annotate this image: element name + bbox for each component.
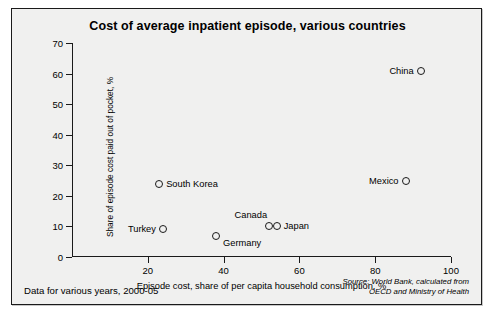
data-point-label-mexico: Mexico: [369, 176, 398, 186]
y-tick: [66, 226, 72, 227]
x-tick: [299, 257, 300, 263]
data-point-japan[interactable]: [273, 222, 281, 230]
chart-footnote: Data for various years, 2000-05: [24, 285, 158, 296]
y-tick-label: 0: [58, 252, 63, 263]
x-axis-line: [72, 256, 451, 257]
y-tick: [66, 257, 72, 258]
plot-area: 010203040506070 20406080100 ChinaMexicoS…: [72, 43, 451, 257]
x-tick-label: 60: [294, 265, 305, 276]
chart-source: Source: World Bank, calculated from OECD…: [342, 277, 469, 298]
data-point-china[interactable]: [417, 67, 425, 75]
data-point-label-japan: Japan: [284, 221, 309, 231]
data-point-label-south-korea: South Korea: [166, 179, 218, 189]
y-tick-label: 50: [52, 99, 63, 110]
y-tick-label: 10: [52, 221, 63, 232]
chart-title: Cost of average inpatient episode, vario…: [12, 19, 482, 33]
data-point-label-canada: Canada: [235, 210, 268, 220]
y-tick: [66, 43, 72, 44]
data-point-canada[interactable]: [265, 222, 273, 230]
y-tick: [66, 135, 72, 136]
chart-source-line-1: Source: World Bank, calculated from: [342, 277, 469, 288]
data-point-south-korea[interactable]: [155, 180, 163, 188]
y-tick: [66, 104, 72, 105]
x-tick-label: 40: [218, 265, 229, 276]
data-point-label-china: China: [389, 66, 413, 76]
chart-figure: Cost of average inpatient episode, vario…: [11, 8, 482, 305]
x-tick-label: 100: [443, 265, 459, 276]
y-tick: [66, 196, 72, 197]
y-tick-label: 20: [52, 190, 63, 201]
y-axis-line: [72, 43, 73, 257]
y-tick-label: 30: [52, 160, 63, 171]
y-tick-label: 40: [52, 129, 63, 140]
data-point-turkey[interactable]: [159, 225, 167, 233]
data-point-mexico[interactable]: [402, 177, 410, 185]
x-tick: [451, 257, 452, 263]
x-tick: [375, 257, 376, 263]
x-tick: [224, 257, 225, 263]
y-tick: [66, 74, 72, 75]
y-tick-label: 70: [52, 38, 63, 49]
y-tick-label: 60: [52, 68, 63, 79]
data-point-germany[interactable]: [212, 232, 220, 240]
x-tick: [148, 257, 149, 263]
x-tick-label: 20: [143, 265, 154, 276]
chart-source-line-2: OECD and Ministry of Health: [342, 287, 469, 298]
data-point-label-turkey: Turkey: [128, 224, 156, 234]
x-tick-label: 80: [370, 265, 381, 276]
y-tick: [66, 165, 72, 166]
data-point-label-germany: Germany: [223, 238, 261, 248]
